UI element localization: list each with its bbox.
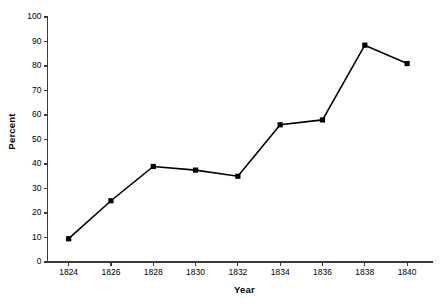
x-tick-label: 1834 bbox=[271, 267, 290, 277]
data-point-marker bbox=[66, 236, 71, 241]
data-point-marker bbox=[320, 117, 325, 122]
y-tick-label: 40 bbox=[32, 158, 42, 168]
data-point-marker bbox=[235, 174, 240, 179]
x-tick-label: 1838 bbox=[355, 267, 374, 277]
data-point-marker bbox=[108, 198, 113, 203]
x-tick-label: 1840 bbox=[398, 267, 417, 277]
x-axis-title-label: Year bbox=[234, 284, 255, 295]
y-tick-label: 20 bbox=[32, 207, 42, 217]
y-tick-label: 90 bbox=[32, 36, 42, 46]
data-point-marker bbox=[193, 168, 198, 173]
y-tick-label: 30 bbox=[32, 183, 42, 193]
x-tick-label: 1832 bbox=[228, 267, 247, 277]
x-tick-label: 1824 bbox=[59, 267, 78, 277]
data-point-marker bbox=[405, 61, 410, 66]
data-series-line bbox=[69, 45, 407, 239]
y-tick-label: 0 bbox=[37, 256, 42, 266]
y-axis-ticks: 0102030405060708090100 bbox=[27, 11, 47, 266]
line-chart: Percent 0102030405060708090100 182418261… bbox=[0, 0, 441, 304]
x-axis-ticks: 182418261828183018321834183618381840 bbox=[59, 262, 417, 277]
plot-area: 0102030405060708090100 18241826182818301… bbox=[0, 0, 441, 304]
x-axis-title: Year bbox=[56, 284, 433, 295]
data-point-marker bbox=[278, 122, 283, 127]
x-tick-label: 1836 bbox=[313, 267, 332, 277]
y-tick-label: 60 bbox=[32, 109, 42, 119]
x-tick-label: 1826 bbox=[102, 267, 121, 277]
data-series-markers bbox=[66, 43, 410, 242]
x-tick-label: 1828 bbox=[144, 267, 163, 277]
data-point-marker bbox=[362, 43, 367, 48]
y-tick-label: 10 bbox=[32, 232, 42, 242]
y-tick-label: 80 bbox=[32, 60, 42, 70]
y-tick-label: 70 bbox=[32, 85, 42, 95]
y-tick-label: 100 bbox=[27, 11, 41, 21]
data-point-marker bbox=[151, 164, 156, 169]
x-tick-label: 1830 bbox=[186, 267, 205, 277]
y-tick-label: 50 bbox=[32, 134, 42, 144]
